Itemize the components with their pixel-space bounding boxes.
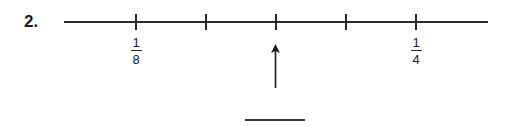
tick-mark-1: [135, 14, 137, 30]
up-arrow-icon: [270, 44, 281, 89]
tick-mark-4: [345, 14, 347, 30]
fraction-numerator: 1: [126, 36, 146, 50]
problem-number: 2.: [24, 12, 38, 32]
tick-mark-5: [415, 14, 417, 30]
tick-mark-2: [205, 14, 207, 30]
fraction-label-one-eighth: 1 8: [126, 36, 146, 66]
fraction-denominator: 4: [406, 51, 426, 66]
fraction-label-one-fourth: 1 4: [406, 36, 426, 66]
tick-mark-3: [275, 14, 277, 30]
fraction-numerator: 1: [406, 36, 426, 50]
answer-blank[interactable]: [245, 119, 305, 121]
fraction-denominator: 8: [126, 51, 146, 66]
